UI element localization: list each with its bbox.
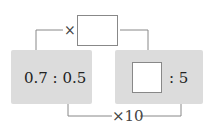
right-ratio-colon-text: : 5 bbox=[169, 71, 188, 86]
multiply-ten-operator: ×10 bbox=[112, 109, 144, 124]
top-answer-box[interactable] bbox=[77, 15, 118, 46]
left-ratio-text: 0.7 : 0.5 bbox=[24, 71, 86, 86]
right-answer-box[interactable] bbox=[132, 62, 162, 93]
multiply-operator-top: × bbox=[64, 23, 76, 37]
